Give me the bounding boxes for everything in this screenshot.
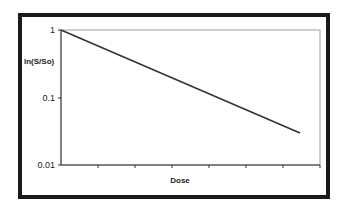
data-line (61, 30, 300, 133)
chart-plot: 1 0.1 0.01 ln(S/So) Dose (0, 0, 345, 206)
y-axis-label: ln(S/So) (24, 57, 55, 66)
y-tick-0.01: 0.01 (37, 160, 55, 170)
y-tick-1: 1 (50, 25, 55, 35)
x-axis-label: Dose (170, 176, 190, 185)
plot-area (61, 30, 320, 165)
y-tick-0.1: 0.1 (42, 93, 55, 103)
